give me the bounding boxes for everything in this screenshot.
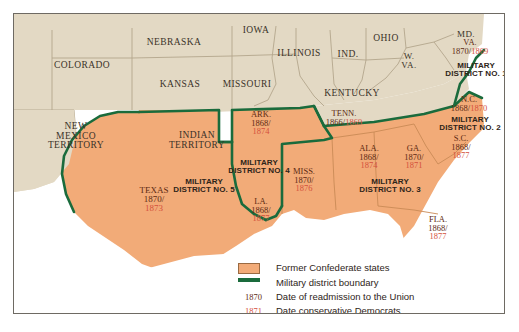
legend-row: Former Confederate states	[238, 262, 490, 274]
legend-label: Military district boundary	[272, 277, 378, 289]
map-frame: COLORADONEBRASKAIOWAKANSASMISSOURIILLINO…	[13, 13, 505, 314]
legend-row: 1870Date of readmission to the Union	[238, 291, 490, 303]
map-figure: COLORADONEBRASKAIOWAKANSASMISSOURIILLINO…	[0, 0, 519, 332]
legend-row: Military district boundary	[238, 277, 490, 289]
legend-key-year: 1871	[238, 305, 272, 315]
map-legend: Former Confederate statesMilitary distri…	[238, 262, 490, 314]
legend-year-sample: 1871	[238, 306, 262, 315]
legend-label: Date conservative Democrats("Redeemers")…	[272, 305, 414, 315]
legend-label: Date of readmission to the Union	[272, 291, 414, 303]
legend-swatch-confederate	[238, 263, 260, 274]
legend-key-swatch	[238, 262, 272, 274]
legend-row: 1871Date conservative Democrats("Redeeme…	[238, 305, 490, 315]
legend-label: Former Confederate states	[272, 262, 390, 274]
legend-year-sample: 1870	[238, 292, 262, 302]
legend-key-year: 1870	[238, 291, 272, 302]
legend-key-line	[238, 277, 272, 282]
legend-line-district-boundary	[238, 278, 260, 282]
